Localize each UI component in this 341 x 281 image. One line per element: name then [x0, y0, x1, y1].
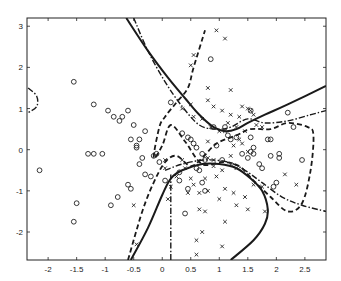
- y-tick-label: 0: [19, 146, 24, 155]
- x-tick-label: -2: [45, 265, 53, 274]
- x-tick-label: 1: [217, 265, 222, 274]
- y-tick-label: -1: [16, 187, 24, 196]
- x-tick-label: 2: [274, 265, 279, 274]
- x-tick-label: -1.5: [70, 265, 84, 274]
- y-tick-label: 2: [19, 63, 24, 72]
- y-tick-label: 1: [19, 105, 24, 114]
- x-tick-label: 0.5: [185, 265, 197, 274]
- y-tick-label: -2: [16, 228, 24, 237]
- x-tick-label: 2.5: [299, 265, 311, 274]
- x-tick-label: -0.5: [127, 265, 141, 274]
- x-tick-label: 0: [160, 265, 165, 274]
- scatter-chart: -2-1.5-1-0.500.511.522.5 3210-1-2: [0, 0, 341, 281]
- y-tick-label: 3: [19, 22, 24, 31]
- x-tick-label: -1: [102, 265, 110, 274]
- x-tick-label: 1.5: [242, 265, 254, 274]
